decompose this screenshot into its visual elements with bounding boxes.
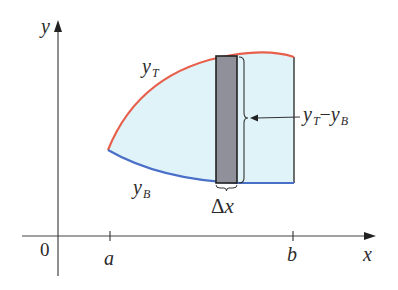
diagram-canvas xyxy=(0,0,398,290)
height-label: yT−yB xyxy=(303,104,348,127)
y-axis-arrowhead xyxy=(54,20,62,32)
top-curve-label: yT xyxy=(142,56,159,79)
delta-symbol: Δ xyxy=(211,194,225,218)
tick-label-a: a xyxy=(104,248,114,268)
height-label-minus: − xyxy=(320,103,331,125)
representative-rectangle xyxy=(216,56,237,183)
bottom-curve-label: yB xyxy=(133,177,150,200)
height-label-bottom-main: y xyxy=(331,103,340,125)
bottom-curve-label-sub: B xyxy=(143,187,150,201)
delta-x-label: Δx xyxy=(211,196,234,217)
delta-variable: x xyxy=(225,194,234,218)
height-label-top-sub: T xyxy=(313,114,320,128)
tick-label-b: b xyxy=(287,244,297,264)
height-label-top-main: y xyxy=(303,103,312,125)
area-between-curves-diagram: y x 0 a b yT yB Δx yT−yB xyxy=(0,0,398,290)
top-curve-label-sub: T xyxy=(152,66,159,80)
y-axis-label: y xyxy=(41,16,50,36)
height-label-bottom-sub: B xyxy=(341,114,348,128)
width-brace xyxy=(216,185,237,191)
top-curve-label-main: y xyxy=(142,55,151,77)
origin-label: 0 xyxy=(40,240,50,259)
x-axis-label: x xyxy=(363,244,372,264)
x-axis-arrowhead xyxy=(364,232,376,240)
bottom-curve-label-main: y xyxy=(133,176,142,198)
